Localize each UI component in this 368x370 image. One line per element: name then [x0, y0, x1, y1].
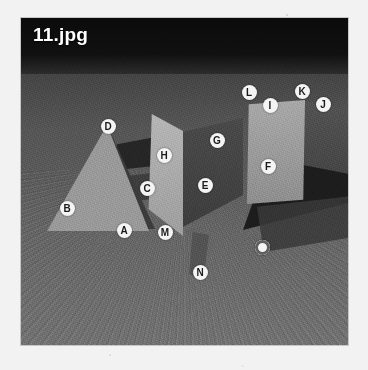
annotation-marker-h[interactable]: H: [157, 148, 172, 163]
photo-canvas: 11.jpg ABCDEFGHIJKLMNO: [21, 18, 348, 345]
annotation-marker-m[interactable]: M: [158, 225, 173, 240]
annotation-marker-j[interactable]: J: [316, 97, 331, 112]
photo-title-overlay: 11.jpg: [21, 18, 98, 52]
annotation-marker-o[interactable]: O: [255, 240, 270, 255]
annotation-marker-k[interactable]: K: [295, 84, 310, 99]
annotation-marker-b[interactable]: B: [60, 201, 75, 216]
annotation-marker-c[interactable]: C: [140, 181, 155, 196]
annotation-marker-n[interactable]: N: [193, 265, 208, 280]
annotation-marker-a[interactable]: A: [117, 223, 132, 238]
annotation-marker-f[interactable]: F: [261, 159, 276, 174]
annotation-marker-d[interactable]: D: [101, 119, 116, 134]
annotation-marker-i[interactable]: I: [263, 98, 278, 113]
page-root: 11.jpg ABCDEFGHIJKLMNO: [0, 0, 368, 370]
tall-block-front-face: [247, 100, 305, 204]
annotation-marker-e[interactable]: E: [198, 178, 213, 193]
annotation-marker-l[interactable]: L: [242, 85, 257, 100]
annotation-marker-g[interactable]: G: [210, 133, 225, 148]
pyramid-lit-face: [47, 125, 149, 231]
